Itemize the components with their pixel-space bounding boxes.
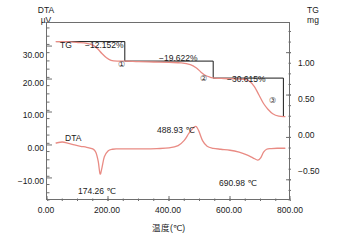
left-tick-1: 20.00 <box>0 78 44 88</box>
left-tick-4: −10.00 <box>0 176 44 186</box>
bottom-tick-2: 400.00 <box>145 205 191 215</box>
step2-marker: ② <box>200 74 207 83</box>
left-tick-2: 10.00 <box>0 110 44 120</box>
right-tick-0: 1.00 <box>298 58 315 68</box>
peak3-temp-label: 690.98 ℃ <box>219 178 257 188</box>
step1-percent-label: −12.152% <box>85 40 124 50</box>
bottom-tick-0: 0.00 <box>23 205 69 215</box>
plot-area: TG −12.152% ① −19.622% ② −30.615% ③ DTA … <box>46 22 290 200</box>
peak2-temp-label: 488.93 ℃ <box>157 125 195 135</box>
x-axis-title: 温度(℃) <box>0 221 337 233</box>
left-axis-ticks <box>47 28 52 201</box>
bottom-axis-ticks <box>47 196 291 201</box>
tg-series-label: TG <box>60 40 72 50</box>
left-tick-3: 0.00 <box>0 143 44 153</box>
peak1-temp-label: 174.26 ℃ <box>78 186 116 196</box>
bottom-tick-1: 200.00 <box>84 205 130 215</box>
tg-dta-chart: DTA µV TG mg 30.00 20.00 10.00 0.00 −10.… <box>0 0 337 243</box>
right-tick-2: 0.00 <box>298 130 315 140</box>
step1-marker: ① <box>118 60 125 69</box>
right-tick-1: 0.50 <box>298 94 315 104</box>
dta-series-label: DTA <box>65 133 81 143</box>
right-axis-ticks <box>286 31 291 201</box>
step3-percent-label: −30.615% <box>227 74 266 84</box>
left-tick-0: 30.00 <box>0 50 44 60</box>
step3-marker: ③ <box>269 96 276 105</box>
step2-percent-label: −19.622% <box>159 53 198 63</box>
bottom-tick-3: 600.00 <box>206 205 252 215</box>
right-tick-3: −0.50 <box>298 166 320 176</box>
plot-svg <box>47 23 291 201</box>
bottom-tick-4: 800.00 <box>267 205 313 215</box>
